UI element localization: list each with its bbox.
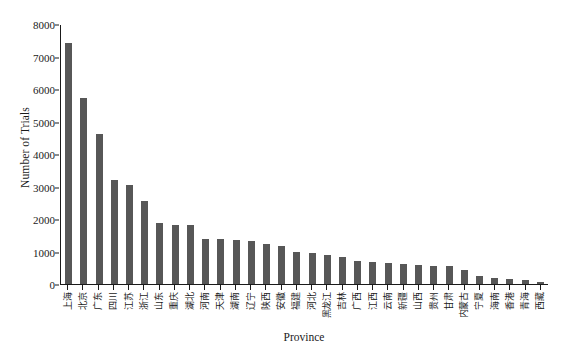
bar xyxy=(111,180,118,284)
x-axis-label-slot: 山东 xyxy=(152,292,167,328)
bar-slot xyxy=(168,25,183,284)
x-axis-label-slot: 黑龙江 xyxy=(319,292,334,328)
x-axis-label-slot: 广西 xyxy=(350,292,365,328)
bar-slot xyxy=(198,25,213,284)
x-axis-tick-slot xyxy=(441,285,456,291)
x-axis-tick-slot xyxy=(167,285,182,291)
bar xyxy=(80,98,87,284)
y-axis-tick-mark xyxy=(55,122,59,123)
bar xyxy=(476,276,483,284)
y-axis-tick-label: 7000 xyxy=(1,52,55,63)
x-axis-tick-mark xyxy=(67,285,68,290)
bar-slot xyxy=(426,25,441,284)
x-axis-tick-mark xyxy=(540,285,541,290)
bar xyxy=(202,239,209,285)
bar-slot xyxy=(320,25,335,284)
bar-slot xyxy=(213,25,228,284)
x-axis-tick-slot xyxy=(411,285,426,291)
bar-slot xyxy=(61,25,76,284)
bar xyxy=(537,282,544,284)
bar xyxy=(385,263,392,284)
y-axis-tick-mark xyxy=(55,25,59,26)
x-axis-tick-mark xyxy=(494,285,495,290)
x-axis-tick-mark xyxy=(403,285,404,290)
x-axis-label-slot: 吉林 xyxy=(335,292,350,328)
x-axis-tick-mark xyxy=(326,285,327,290)
x-axis-tick-mark xyxy=(387,285,388,290)
x-axis-tick-label: 云南 xyxy=(383,292,392,310)
bar-slot xyxy=(244,25,259,284)
y-axis-tick-label: 4000 xyxy=(1,150,55,161)
bar xyxy=(522,280,529,284)
x-axis-label-slot: 西藏 xyxy=(533,292,548,328)
bar xyxy=(248,241,255,284)
x-axis-tick-slot xyxy=(487,285,502,291)
x-axis-tick-slot xyxy=(518,285,533,291)
x-axis-tick-slot xyxy=(365,285,380,291)
x-axis-tick-label: 贵州 xyxy=(429,292,438,310)
bar-slot xyxy=(137,25,152,284)
x-axis-tick-label: 辽宁 xyxy=(246,292,255,310)
bar xyxy=(400,264,407,284)
bar xyxy=(430,266,437,284)
x-axis-label-slot: 湖南 xyxy=(228,292,243,328)
x-axis-label-slot: 山西 xyxy=(411,292,426,328)
x-axis-tick-mark xyxy=(143,285,144,290)
x-axis-tick-label: 海南 xyxy=(490,292,499,310)
x-axis-label-slot: 宁夏 xyxy=(472,292,487,328)
bar xyxy=(156,223,163,284)
x-axis-label-slot: 内蒙古 xyxy=(457,292,472,328)
bar xyxy=(461,270,468,284)
x-axis-label-slot: 河北 xyxy=(304,292,319,328)
x-axis-label-slot: 天津 xyxy=(213,292,228,328)
bar-slot xyxy=(228,25,243,284)
bar-slot xyxy=(411,25,426,284)
y-axis-tick-label: 8000 xyxy=(1,20,55,31)
bar xyxy=(126,185,133,284)
x-axis-label-slot: 辽宁 xyxy=(243,292,258,328)
bar-slot xyxy=(472,25,487,284)
x-axis-label-slot: 甘肃 xyxy=(441,292,456,328)
bar-chart-figure: Number of Trials 01000200030004000500060… xyxy=(0,0,574,351)
bar-slot xyxy=(457,25,472,284)
x-axis-label-slot: 湖北 xyxy=(182,292,197,328)
x-axis-tick-slot xyxy=(335,285,350,291)
x-axis-label-slot: 贵州 xyxy=(426,292,441,328)
y-axis-tick-mark xyxy=(55,220,59,221)
bar xyxy=(506,279,513,284)
x-axis-label-slot: 青海 xyxy=(518,292,533,328)
x-axis-label-slot: 福建 xyxy=(289,292,304,328)
x-axis-tick-mark xyxy=(204,285,205,290)
x-axis-tick-mark xyxy=(448,285,449,290)
x-axis-tick-label: 香港 xyxy=(505,292,514,310)
bar-slot xyxy=(396,25,411,284)
x-axis-label-slot: 江苏 xyxy=(121,292,136,328)
bar-slot xyxy=(76,25,91,284)
y-axis-tick-label: 5000 xyxy=(1,117,55,128)
x-axis-tick-slot xyxy=(304,285,319,291)
y-axis-tick-mark xyxy=(55,285,59,286)
x-axis-label-slot: 新疆 xyxy=(396,292,411,328)
bar-slot xyxy=(502,25,517,284)
bar xyxy=(141,201,148,284)
bar xyxy=(172,225,179,284)
x-axis-tick-label: 天津 xyxy=(216,292,225,310)
x-axis-tick-slot xyxy=(350,285,365,291)
x-axis-tick-label: 河南 xyxy=(200,292,209,310)
bar-slot xyxy=(365,25,380,284)
x-axis-tick-mark xyxy=(189,285,190,290)
x-axis-tick-mark xyxy=(265,285,266,290)
x-axis-tick-label: 宁夏 xyxy=(475,292,484,310)
x-axis-tick-label: 湖南 xyxy=(231,292,240,310)
x-axis-tick-label: 江西 xyxy=(368,292,377,310)
bar-slot xyxy=(122,25,137,284)
bar xyxy=(324,255,331,284)
x-axis-tick-mark xyxy=(433,285,434,290)
x-axis-tick-label: 甘肃 xyxy=(444,292,453,310)
x-axis-tick-mark xyxy=(418,285,419,290)
bar xyxy=(354,261,361,284)
x-axis-label-slot: 香港 xyxy=(502,292,517,328)
x-axis-label-slot: 广东 xyxy=(91,292,106,328)
x-axis-tick-slot xyxy=(502,285,517,291)
x-axis-tick-slot xyxy=(274,285,289,291)
